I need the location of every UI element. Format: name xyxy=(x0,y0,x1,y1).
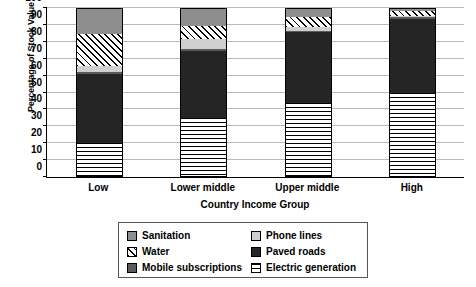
bar-segment-mobile[interactable] xyxy=(390,17,435,19)
legend: SanitationWaterMobile subscriptions Phon… xyxy=(118,222,368,278)
bar-segment-paved[interactable] xyxy=(77,74,122,142)
y-tick-label: 0 xyxy=(36,162,42,172)
legend-item-water[interactable]: Water xyxy=(127,244,242,259)
x-axis-title: Country Income Group xyxy=(46,199,464,210)
bar-segment-electric[interactable] xyxy=(181,118,226,176)
legend-swatch-sanitation-icon xyxy=(127,231,137,241)
bar-segment-sanitation[interactable] xyxy=(77,9,122,34)
bar-segment-mobile[interactable] xyxy=(286,31,331,33)
x-tick-label: High xyxy=(401,182,423,193)
legend-label: Water xyxy=(142,247,169,257)
legend-swatch-water-icon xyxy=(127,247,137,257)
bar-series-container xyxy=(47,8,464,177)
stacked-bar[interactable] xyxy=(76,8,123,177)
y-tick-label: 40 xyxy=(31,94,42,104)
legend-label: Electric generation xyxy=(266,263,356,273)
bar-segment-sanitation[interactable] xyxy=(286,9,331,17)
bar-segment-water[interactable] xyxy=(77,34,122,66)
legend-label: Phone lines xyxy=(266,231,322,241)
bar-segment-water[interactable] xyxy=(286,17,331,27)
bar-group[interactable] xyxy=(180,8,227,177)
y-tick-label: 70 xyxy=(31,44,42,54)
stacked-bar[interactable] xyxy=(285,8,332,177)
y-tick-label: 60 xyxy=(31,61,42,71)
bar-segment-paved[interactable] xyxy=(286,32,331,102)
legend-item-phone[interactable]: Phone lines xyxy=(251,228,356,243)
stacked-bar[interactable] xyxy=(389,8,436,177)
bar-segment-electric[interactable] xyxy=(390,93,435,177)
legend-item-sanitation[interactable]: Sanitation xyxy=(127,228,242,243)
legend-swatch-mobile-icon xyxy=(127,263,137,273)
bar-segment-paved[interactable] xyxy=(390,19,435,92)
bar-segment-phone[interactable] xyxy=(286,27,331,30)
y-tick-label: 50 xyxy=(31,78,42,88)
bar-group[interactable] xyxy=(76,8,123,177)
stacked-bar[interactable] xyxy=(180,8,227,177)
legend-label: Sanitation xyxy=(142,231,190,241)
bar-segment-water[interactable] xyxy=(181,26,226,39)
stacked-bar-chart: Percentage of Stock Value 01020304050607… xyxy=(0,0,476,287)
legend-column-left: SanitationWaterMobile subscriptions xyxy=(127,228,242,276)
bar-segment-phone[interactable] xyxy=(77,66,122,73)
y-tick-label: 10 xyxy=(31,145,42,155)
legend-item-paved[interactable]: Paved roads xyxy=(251,244,356,259)
x-tick-label: Upper middle xyxy=(275,182,339,193)
bar-segment-sanitation[interactable] xyxy=(390,9,435,11)
bar-segment-mobile[interactable] xyxy=(181,49,226,51)
legend-item-mobile[interactable]: Mobile subscriptions xyxy=(127,260,242,275)
bar-segment-sanitation[interactable] xyxy=(181,9,226,26)
y-tick-label: 90 xyxy=(31,10,42,20)
legend-swatch-electric-icon xyxy=(251,263,261,273)
x-tick-label: Lower middle xyxy=(171,182,235,193)
legend-swatch-paved-icon xyxy=(251,247,261,257)
y-tick-label: 20 xyxy=(31,128,42,138)
bar-segment-electric[interactable] xyxy=(286,103,331,176)
legend-label: Mobile subscriptions xyxy=(142,263,242,273)
bar-segment-phone[interactable] xyxy=(181,39,226,49)
y-tick-label: 100 xyxy=(25,0,42,3)
plot-area: 0102030405060708090100 xyxy=(46,8,464,178)
bar-group[interactable] xyxy=(389,8,436,177)
bar-segment-paved[interactable] xyxy=(181,51,226,118)
legend-swatch-phone-icon xyxy=(251,231,261,241)
x-tick-label: Low xyxy=(88,182,108,193)
y-tick-label: 30 xyxy=(31,111,42,121)
bar-segment-phone[interactable] xyxy=(390,16,435,18)
bar-segment-water[interactable] xyxy=(390,11,435,16)
y-tick-label: 80 xyxy=(31,27,42,37)
legend-item-electric[interactable]: Electric generation xyxy=(251,260,356,275)
bar-segment-mobile[interactable] xyxy=(77,72,122,74)
legend-column-right: Phone linesPaved roadsElectric generatio… xyxy=(251,228,356,276)
bar-group[interactable] xyxy=(285,8,332,177)
bar-segment-electric[interactable] xyxy=(77,143,122,176)
legend-label: Paved roads xyxy=(266,247,325,257)
